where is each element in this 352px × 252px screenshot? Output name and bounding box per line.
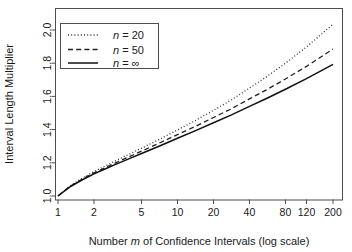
legend-value: ∞ — [132, 57, 140, 69]
x-tick-label: 2 — [91, 206, 97, 218]
legend-value: 50 — [132, 44, 144, 56]
xlabel-part1: Number — [89, 235, 131, 247]
x-tick-label: 40 — [244, 206, 256, 218]
y-tick-label: 1.4 — [41, 122, 53, 137]
legend-equals: = — [119, 44, 132, 56]
legend-value: 20 — [132, 29, 144, 41]
y-tick-label: 2.0 — [41, 23, 53, 38]
x-tick-label: 10 — [172, 206, 184, 218]
chart-canvas: 12510204080120200 1.01.21.41.61.82.0 n =… — [0, 0, 352, 252]
xlabel-symbol-m: m — [131, 235, 140, 247]
y-tick-label: 1.0 — [41, 189, 53, 204]
legend-label-2: n = ∞ — [113, 57, 140, 69]
x-tick-label: 80 — [280, 206, 292, 218]
x-tick-label: 20 — [208, 206, 220, 218]
y-tick-label: 1.8 — [41, 56, 53, 71]
legend-equals: = — [119, 57, 132, 69]
xlabel-part2: of Confidence Intervals (log scale) — [140, 235, 309, 247]
x-axis-title: Number m of Confidence Intervals (log sc… — [89, 235, 310, 247]
y-tick-label: 1.6 — [41, 89, 53, 104]
y-axis-title: Interval Length Multiplier — [3, 44, 15, 164]
legend-label-0: n = 20 — [113, 29, 144, 41]
x-tick-label: 1 — [55, 206, 61, 218]
legend-label-1: n = 50 — [113, 44, 144, 56]
y-tick-label: 1.2 — [41, 155, 53, 170]
chart-legend: n = 20n = 50n = ∞ — [61, 24, 159, 70]
chart-figure: 12510204080120200 1.01.21.41.61.82.0 n =… — [0, 0, 352, 252]
x-tick-label: 200 — [324, 206, 342, 218]
legend-equals: = — [119, 29, 132, 41]
x-tick-label: 120 — [298, 206, 316, 218]
x-tick-label: 5 — [139, 206, 145, 218]
